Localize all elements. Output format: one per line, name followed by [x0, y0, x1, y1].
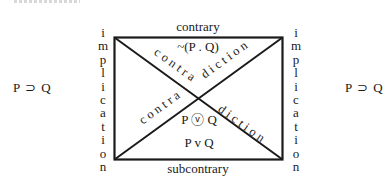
top-inner-formula: ~(P . Q) — [177, 40, 219, 54]
subcontrary-label: subcontrary — [167, 162, 228, 176]
middle-inner-formula: P ⓥ Q — [181, 113, 217, 127]
bottom-inner-formula: P v Q — [184, 136, 213, 150]
contrary-label: contrary — [176, 20, 219, 34]
